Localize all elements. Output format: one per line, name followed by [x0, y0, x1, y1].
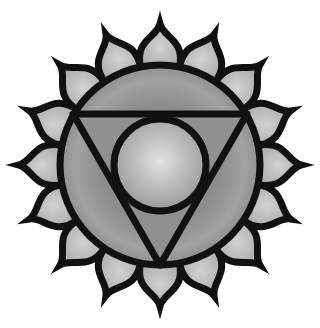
throat-chakra-symbol [0, 0, 320, 328]
inner-circle-moon [114, 119, 206, 211]
